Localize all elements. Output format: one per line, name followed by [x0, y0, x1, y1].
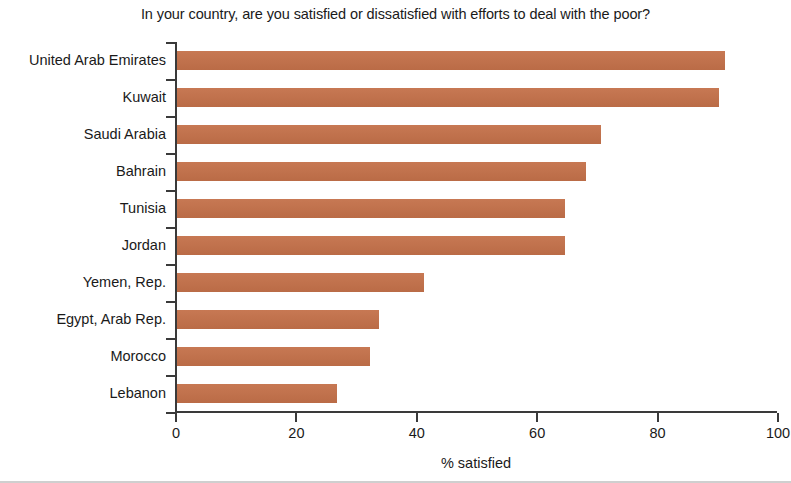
x-axis-tick-label: 40: [387, 425, 447, 441]
bar-yemen-rep: [177, 273, 424, 292]
y-axis-tick: [166, 42, 175, 44]
x-axis-tick-label: 80: [628, 425, 688, 441]
bar-bahrain: [177, 162, 586, 181]
y-axis-tick: [166, 338, 175, 340]
y-axis-tick: [166, 375, 175, 377]
y-axis-label: Lebanon: [0, 384, 166, 403]
y-axis-tick: [166, 412, 175, 414]
x-axis-tick: [536, 413, 538, 422]
y-axis-tick: [166, 227, 175, 229]
y-axis-tick: [166, 264, 175, 266]
x-axis-tick-label: 100: [748, 425, 791, 441]
x-axis-tick: [416, 413, 418, 422]
x-axis-tick: [175, 413, 177, 422]
bar-tunisia: [177, 199, 565, 218]
y-axis-label: Morocco: [0, 347, 166, 366]
y-axis-tick: [166, 79, 175, 81]
x-axis-tick-label: 0: [146, 425, 206, 441]
x-axis-tick-label: 60: [507, 425, 567, 441]
x-axis-tick: [295, 413, 297, 422]
y-axis-label: United Arab Emirates: [0, 51, 166, 70]
plot-area: 020406080100: [175, 42, 777, 412]
y-axis-label: Tunisia: [0, 199, 166, 218]
bar-saudi-arabia: [177, 125, 601, 144]
y-axis-tick: [166, 153, 175, 155]
x-axis-title: % satisfied: [175, 455, 777, 471]
y-axis-label: Egypt, Arab Rep.: [0, 310, 166, 329]
bar-united-arab-emirates: [177, 51, 725, 70]
y-axis-label: Yemen, Rep.: [0, 273, 166, 292]
x-axis-tick-label: 20: [266, 425, 326, 441]
x-axis-line: [175, 411, 777, 413]
chart-title: In your country, are you satisfied or di…: [0, 6, 791, 22]
y-axis-label: Jordan: [0, 236, 166, 255]
bar-morocco: [177, 347, 370, 366]
bar-kuwait: [177, 88, 719, 107]
bar-egypt-arab-rep: [177, 310, 379, 329]
bar-lebanon: [177, 384, 337, 403]
chart-figure: In your country, are you satisfied or di…: [0, 0, 791, 483]
y-axis-label: Saudi Arabia: [0, 125, 166, 144]
y-axis-tick: [166, 301, 175, 303]
y-axis-label: Bahrain: [0, 162, 166, 181]
bar-jordan: [177, 236, 565, 255]
x-axis-tick: [777, 413, 779, 422]
y-axis-tick: [166, 190, 175, 192]
x-axis-tick: [657, 413, 659, 422]
y-axis-label: Kuwait: [0, 88, 166, 107]
y-axis-tick: [166, 116, 175, 118]
